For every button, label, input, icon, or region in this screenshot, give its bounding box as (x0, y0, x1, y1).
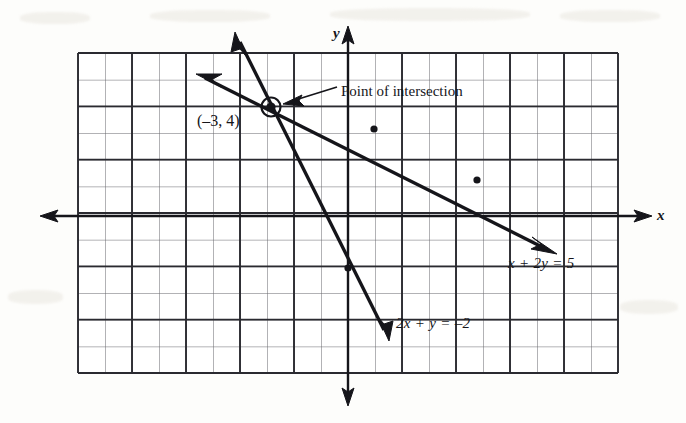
coordinate-plane-figure (0, 0, 686, 423)
x-axis-label: x (657, 208, 665, 223)
point-of-intersection-label: Point of intersection (341, 84, 463, 99)
line-1-plot-point (370, 125, 377, 132)
intersection-coordinate-label: (–3, 4) (197, 113, 240, 129)
line-2-plot-point (344, 264, 351, 271)
equation-label-line-2: 2x + y = –2 (396, 316, 470, 331)
y-axis-label: y (333, 26, 340, 41)
intersection-point-dot (266, 102, 275, 111)
equation-label-line-1: x + 2y = 5 (508, 256, 575, 271)
line-1-plot-point (473, 176, 480, 183)
